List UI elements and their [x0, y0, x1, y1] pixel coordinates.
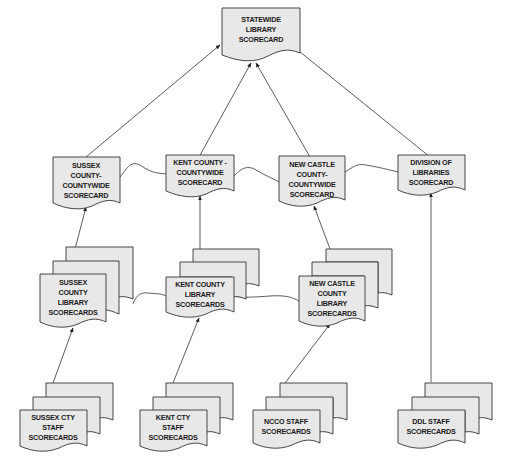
node-statewide-library-scorecard[interactable]: STATEWIDE LIBRARY SCORECARD	[222, 8, 300, 61]
edge-newcastle-libraries-to-county	[314, 206, 330, 249]
node-label: STAFF	[42, 423, 64, 432]
node-label: STATEWIDE	[241, 15, 281, 24]
node-label: COUNTY	[317, 289, 347, 298]
edge-sussex-staff-to-libraries	[53, 328, 73, 383]
node-label: COUNTYWIDE	[288, 180, 336, 189]
node-label: COUNTYWIDE	[176, 168, 224, 177]
link-kent-newcastle-county	[234, 168, 279, 182]
node-label: COUNTY-	[71, 171, 103, 180]
node-label: COUNTYWIDE	[62, 181, 110, 190]
link-newcastle-division-county	[345, 165, 398, 172]
node-label: COUNTY	[58, 288, 88, 297]
node-label: KENT COUNTY	[175, 280, 225, 289]
node-label: NEW CASTLE	[289, 160, 335, 169]
edge-kent-county-to-statewide	[199, 63, 251, 157]
node-newcastle-county-library-scorecards[interactable]: NEW CASTLE COUNTY LIBRARY SCORECARDS	[299, 249, 392, 326]
node-label: COUNTY-	[297, 170, 329, 179]
link-sussex-kent-libraries	[133, 293, 166, 304]
node-kent-county-library-scorecards[interactable]: KENT COUNTY LIBRARY SCORECARDS	[166, 249, 259, 317]
edge-newcastle-county-to-statewide	[256, 63, 310, 157]
scorecard-hierarchy-diagram: STATEWIDE LIBRARY SCORECARD SUSSEX COUNT…	[0, 0, 513, 475]
node-label: SCORECARD	[409, 178, 454, 187]
node-label: SCORECARD	[64, 191, 109, 200]
node-label: SCORECARDS	[175, 300, 225, 309]
edge-sussex-county-to-statewide	[86, 45, 220, 157]
node-ncco-staff-scorecards[interactable]: NCCO STAFF SCORECARDS	[253, 383, 347, 448]
edge-division-to-statewide	[289, 43, 430, 157]
node-label: SCORECARDS	[261, 427, 311, 436]
node-label: LIBRARIES	[413, 168, 450, 177]
node-label: SUSSEX	[72, 161, 100, 170]
node-label: LIBRARY	[58, 298, 89, 307]
node-label: SCORECARDS	[28, 433, 78, 442]
edge-kent-staff-to-libraries	[173, 318, 199, 383]
node-label: SUSSEX	[59, 278, 87, 287]
node-newcastle-countywide-scorecard[interactable]: NEW CASTLE COUNTY- COUNTYWIDE SCORECARD	[279, 156, 345, 206]
link-sussex-kent-county	[120, 164, 166, 177]
node-sussex-county-library-scorecards[interactable]: SUSSEX COUNTY LIBRARY SCORECARDS	[40, 247, 133, 327]
edge-sussex-libraries-to-county	[75, 207, 86, 249]
node-ddl-staff-scorecards[interactable]: DDL STAFF SCORECARDS	[398, 383, 492, 448]
node-label: NCCO STAFF	[264, 417, 309, 426]
node-label: SCORECARDS	[307, 309, 357, 318]
node-label: DIVISION OF	[410, 158, 452, 167]
node-label: SCORECARDS	[48, 308, 98, 317]
node-label: SCORECARD	[178, 178, 223, 187]
node-kent-cty-staff-scorecards[interactable]: KENT CTY STAFF SCORECARDS	[140, 383, 233, 451]
node-label: LIBRARY	[246, 25, 277, 34]
node-label: KENT CTY	[156, 413, 191, 422]
node-kent-countywide-scorecard[interactable]: KENT COUNTY - COUNTYWIDE SCORECARD	[166, 155, 234, 197]
node-label: SCORECARDS	[406, 427, 456, 436]
node-label: SCORECARD	[239, 35, 284, 44]
node-label: SCORECARD	[290, 190, 335, 199]
node-label: KENT COUNTY -	[173, 158, 227, 167]
node-label: NEW CASTLE	[309, 279, 355, 288]
edge-ncco-staff-to-libraries	[285, 324, 330, 383]
node-label: SCORECARDS	[148, 433, 198, 442]
node-sussex-countywide-scorecard[interactable]: SUSSEX COUNTY- COUNTYWIDE SCORECARD	[53, 157, 120, 209]
node-label: SUSSEX CTY	[31, 413, 75, 422]
node-label: DDL STAFF	[412, 417, 450, 426]
node-label: STAFF	[162, 423, 184, 432]
node-label: LIBRARY	[317, 299, 348, 308]
connectors	[53, 43, 431, 383]
node-sussex-cty-staff-scorecards[interactable]: SUSSEX CTY STAFF SCORECARDS	[20, 383, 113, 451]
node-division-of-libraries-scorecard[interactable]: DIVISION OF LIBRARIES SCORECARD	[398, 155, 465, 195]
node-label: LIBRARY	[185, 290, 216, 299]
